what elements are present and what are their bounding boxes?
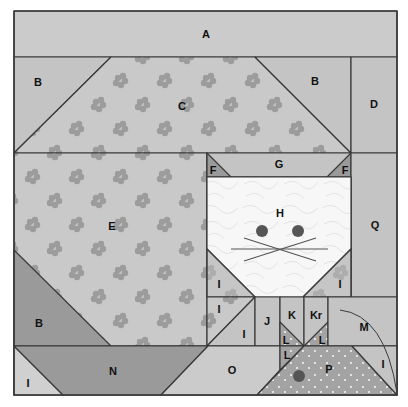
label-M: M <box>359 321 368 333</box>
label-I-bottom-right: I <box>381 358 384 370</box>
label-I-row2-top: I <box>217 303 220 315</box>
label-N: N <box>109 365 117 377</box>
label-I-row2-bottom: I <box>242 328 245 340</box>
label-J: J <box>264 315 270 327</box>
label-L-bottom: L <box>284 349 291 361</box>
label-B-top-right: B <box>311 75 319 87</box>
label-I-face-left: I <box>217 278 220 290</box>
label-O: O <box>228 364 237 376</box>
label-L-right: L <box>319 334 326 346</box>
label-Q: Q <box>371 219 380 231</box>
label-K: K <box>288 309 296 321</box>
label-P: P <box>325 363 332 375</box>
eye-right-icon <box>292 225 304 237</box>
p-dot-icon <box>293 370 305 382</box>
eye-left-icon <box>256 225 268 237</box>
label-A: A <box>202 28 210 40</box>
label-Kr: Kr <box>310 309 323 321</box>
label-D: D <box>370 98 378 110</box>
label-I-face-right: I <box>338 278 341 290</box>
label-E: E <box>108 220 115 232</box>
quilt-block-diagram: A B C B D E F G F H Q I I B I I J K Kr L… <box>0 0 408 407</box>
label-B-bottom-left: B <box>35 317 43 329</box>
label-L-left: L <box>283 334 290 346</box>
label-F-right: F <box>342 164 349 176</box>
label-B-top-left: B <box>34 76 42 88</box>
label-G: G <box>275 158 284 170</box>
label-F-left: F <box>210 164 217 176</box>
label-H: H <box>276 207 284 219</box>
label-I-bottom-left: I <box>26 377 29 389</box>
label-C: C <box>178 100 186 112</box>
